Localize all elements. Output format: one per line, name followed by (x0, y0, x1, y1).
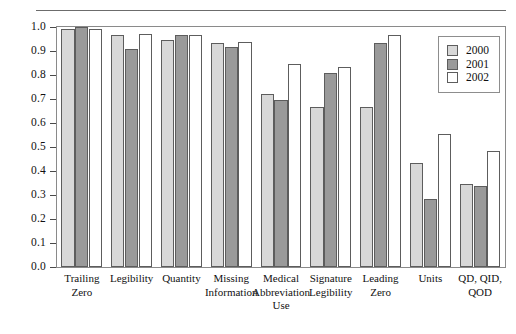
bar (410, 163, 423, 267)
y-axis-tick-label: 0.0 (0, 261, 46, 273)
y-axis-tick-label: 0.7 (0, 93, 46, 105)
y-axis-tick-mark (50, 267, 56, 268)
bar (487, 151, 500, 267)
bar (374, 43, 387, 267)
y-axis-tick-mark (50, 123, 56, 124)
legend-swatch-icon (447, 45, 458, 56)
legend-item-label: 2000 (466, 45, 489, 57)
bar-group (206, 27, 256, 267)
bar (324, 73, 337, 267)
legend-swatch-icon (447, 72, 458, 83)
legend-item: 2002 (447, 72, 489, 84)
x-axis-category-labels: TrailingZeroLegibilityQuantityMissingInf… (57, 272, 505, 330)
bar-group (256, 27, 306, 267)
bar-group (306, 27, 356, 267)
bar (238, 42, 251, 267)
bar (438, 134, 451, 267)
x-axis-category-label-line: QD, QID, (447, 272, 513, 286)
x-axis-category-label-line: Use (248, 299, 314, 313)
chart-legend: 200020012002 (438, 36, 500, 93)
bar (460, 184, 473, 267)
y-axis-tick-label: 0.4 (0, 165, 46, 177)
y-axis-tick-mark (50, 243, 56, 244)
y-axis-tick-mark (50, 99, 56, 100)
x-axis-category-label-line: Zero (49, 286, 115, 300)
y-axis-tick-label: 0.3 (0, 189, 46, 201)
legend-item: 2001 (447, 59, 489, 71)
bar (388, 35, 401, 267)
bar (261, 94, 274, 267)
y-axis-tick-label: 0.2 (0, 213, 46, 225)
legend-item-label: 2001 (466, 59, 489, 71)
bar (225, 47, 238, 267)
y-axis-tick-mark (50, 195, 56, 196)
bar-group (356, 27, 406, 267)
x-axis-category-label-line: Zero (348, 286, 414, 300)
bar (288, 64, 301, 267)
y-axis-tick-mark (50, 51, 56, 52)
y-axis-tick-mark (50, 219, 56, 220)
bar (175, 35, 188, 267)
bar (89, 29, 102, 267)
bar (474, 186, 487, 267)
y-axis-tick-mark (50, 171, 56, 172)
top-divider-rule (36, 10, 506, 11)
bar (338, 67, 351, 267)
y-axis-tick-mark (50, 27, 56, 28)
bar (310, 107, 323, 267)
bar (111, 35, 124, 267)
y-axis-tick-label: 0.8 (0, 69, 46, 81)
legend-swatch-icon (447, 59, 458, 70)
y-axis-tick-mark (50, 75, 56, 76)
x-axis-category-label: QD, QID,QOD (447, 272, 513, 299)
y-axis-tick-mark (50, 147, 56, 148)
x-axis-category-label-line: QOD (447, 286, 513, 300)
bar-chart-figure: 1.00.90.80.70.60.50.40.30.20.10.0 Traili… (0, 0, 516, 334)
bar (274, 100, 287, 267)
bar (61, 29, 74, 267)
bar-group (107, 27, 157, 267)
legend-item-label: 2002 (466, 72, 489, 84)
bar (75, 27, 88, 267)
bar-group (57, 27, 107, 267)
bar (189, 35, 202, 267)
bar (424, 199, 437, 267)
bar (360, 107, 373, 267)
y-axis-tick-label: 0.5 (0, 141, 46, 153)
y-axis-tick-label: 0.1 (0, 237, 46, 249)
bar-group (157, 27, 207, 267)
y-axis-tick-label: 0.9 (0, 45, 46, 57)
bar (161, 40, 174, 267)
legend-item: 2000 (447, 45, 489, 57)
bar (211, 43, 224, 267)
y-axis-tick-label: 0.6 (0, 117, 46, 129)
bar (125, 49, 138, 267)
bar (139, 34, 152, 267)
y-axis-tick-label: 1.0 (0, 21, 46, 33)
